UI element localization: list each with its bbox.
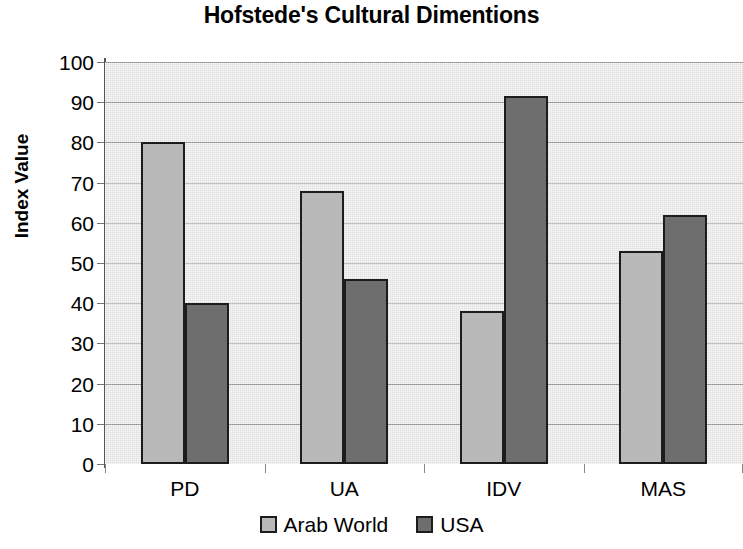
y-axis-tick-label: 100 xyxy=(34,52,94,73)
legend-item-label: Arab World xyxy=(284,514,389,535)
bar xyxy=(300,191,344,464)
bars-layer xyxy=(105,62,743,464)
x-axis-tick-mark xyxy=(105,464,106,473)
y-axis-tick-label: 40 xyxy=(34,293,94,314)
y-axis-tick-label: 60 xyxy=(34,212,94,233)
legend-item[interactable]: USA xyxy=(416,514,483,535)
y-axis-title: Index Value xyxy=(11,86,33,286)
x-axis-tick-mark xyxy=(265,464,266,473)
legend-swatch-icon xyxy=(260,516,277,533)
y-axis-tick-label: 50 xyxy=(34,253,94,274)
legend-swatch-icon xyxy=(416,516,433,533)
y-axis-tick-label: 20 xyxy=(34,373,94,394)
bar xyxy=(504,96,548,464)
y-axis-tick-label: 0 xyxy=(34,454,94,475)
bar xyxy=(185,303,229,464)
y-axis-tick-labels: 1009080706050403020100 xyxy=(34,62,94,464)
bar xyxy=(619,251,663,464)
y-axis-tick-label: 90 xyxy=(34,92,94,113)
y-axis-tick-label: 70 xyxy=(34,172,94,193)
x-axis-tick-label: MAS xyxy=(640,478,686,499)
chart-title: Hofstede's Cultural Dimentions xyxy=(0,2,743,29)
bar xyxy=(663,215,707,464)
chart-legend: Arab WorldUSA xyxy=(0,514,743,535)
legend-item-label: USA xyxy=(440,514,483,535)
x-axis-tick-label: PD xyxy=(170,478,199,499)
x-axis-tick-mark xyxy=(424,464,425,473)
y-axis-tick-label: 30 xyxy=(34,333,94,354)
bar-chart-figure: Hofstede's Cultural Dimentions Index Val… xyxy=(0,0,743,549)
bar xyxy=(141,142,185,464)
y-axis-tick-label: 80 xyxy=(34,132,94,153)
bar xyxy=(344,279,388,464)
x-axis-tick-mark xyxy=(584,464,585,473)
bar xyxy=(460,311,504,464)
legend-item[interactable]: Arab World xyxy=(260,514,389,535)
x-axis-tick-labels: PDUAIDVMAS xyxy=(105,478,743,510)
x-axis-tick-label: UA xyxy=(330,478,359,499)
plot-area xyxy=(105,62,743,464)
x-axis-tick-label: IDV xyxy=(486,478,521,499)
y-axis-tick-label: 10 xyxy=(34,413,94,434)
